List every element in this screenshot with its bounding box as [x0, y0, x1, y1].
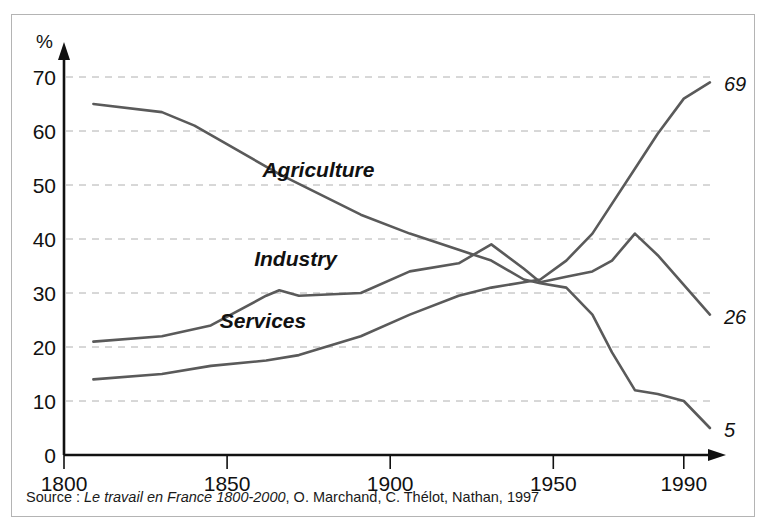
series-label-industry: Industry — [254, 247, 338, 270]
source-suffix: , O. Marchand, C. Thélot, Nathan, 1997 — [286, 489, 540, 505]
x-axis-ticks-group — [64, 455, 684, 469]
y-axis — [58, 42, 70, 455]
source-title: Le travail en France 1800-2000 — [84, 489, 286, 505]
source-prefix: Source : — [26, 489, 84, 505]
gridlines-group — [66, 77, 712, 401]
end-value-services: 69 — [724, 73, 746, 95]
y-axis-tick-labels-group: 010203040506070 — [33, 66, 56, 467]
y-tick-label-20: 20 — [33, 336, 56, 359]
y-tick-label-70: 70 — [33, 66, 56, 89]
y-tick-label-10: 10 — [33, 390, 56, 413]
x-axis — [64, 449, 726, 461]
y-tick-label-40: 40 — [33, 228, 56, 251]
y-tick-label-30: 30 — [33, 282, 56, 305]
end-value-agriculture: 5 — [724, 419, 736, 441]
y-tick-label-0: 0 — [44, 444, 56, 467]
series-line-industry — [93, 234, 710, 342]
line-chart: 010203040506070 18001850190019501990 % A… — [0, 0, 770, 532]
source-caption: Source : Le travail en France 1800-2000,… — [26, 489, 726, 505]
y-tick-label-50: 50 — [33, 174, 56, 197]
y-tick-label-60: 60 — [33, 120, 56, 143]
series-label-agriculture: Agriculture — [261, 158, 374, 181]
series-end-value-labels-group: 52669 — [723, 73, 747, 441]
end-value-industry: 26 — [723, 306, 747, 328]
series-label-services: Services — [220, 309, 306, 332]
series-lines-group — [93, 82, 710, 428]
y-axis-unit-label: % — [36, 31, 53, 52]
series-line-agriculture — [93, 104, 710, 428]
figure-root: 010203040506070 18001850190019501990 % A… — [0, 0, 770, 532]
